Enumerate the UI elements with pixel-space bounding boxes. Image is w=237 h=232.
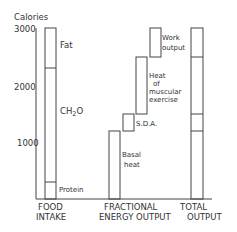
tick-1000: 1000 bbox=[17, 138, 39, 148]
total-label-1: TOTAL bbox=[179, 202, 207, 212]
axis-title: Calories bbox=[14, 12, 49, 22]
work-label-2: output bbox=[162, 44, 185, 52]
food-label-1: FOOD bbox=[38, 202, 63, 212]
food-label-2: INTAKE bbox=[36, 212, 66, 222]
work-label-1: Work bbox=[162, 34, 181, 42]
exercise-label-2: of bbox=[153, 80, 160, 88]
ch2o-label: CH2O bbox=[60, 106, 83, 118]
fat-label: Fat bbox=[60, 40, 73, 50]
energy-balance-diagram: Calories 3000 2000 1000 Fat CH2O Protein… bbox=[0, 0, 237, 232]
exercise-label-3: muscular bbox=[149, 88, 181, 96]
total-output-bar bbox=[191, 28, 203, 199]
basal-heat-bar bbox=[109, 131, 120, 199]
total-label-2: OUTPUT bbox=[187, 212, 222, 222]
food-intake-bar bbox=[45, 28, 56, 199]
basal-label-1: Basal bbox=[122, 151, 141, 159]
sda-label: S.D.A. bbox=[136, 120, 157, 128]
exercise-label-1: Heat bbox=[149, 72, 166, 80]
fractional-label-2: ENERGY OUTPUT bbox=[99, 212, 172, 222]
muscular-exercise-bar bbox=[136, 57, 147, 114]
work-output-bar bbox=[150, 28, 161, 57]
exercise-label-4: exercise bbox=[149, 96, 178, 104]
tick-3000: 3000 bbox=[14, 24, 36, 34]
protein-label: Protein bbox=[59, 186, 84, 194]
basal-label-2: heat bbox=[124, 161, 140, 169]
sda-bar bbox=[123, 114, 134, 131]
fractional-label-1: FRACTIONAL bbox=[104, 202, 158, 212]
tick-2000: 2000 bbox=[14, 82, 36, 92]
